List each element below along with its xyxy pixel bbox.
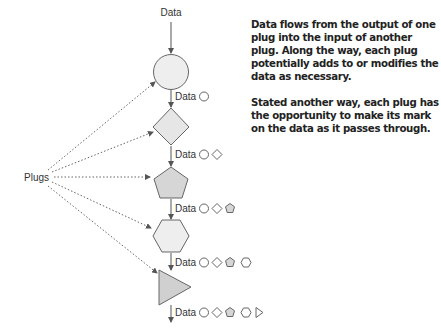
input-data-label: Data bbox=[160, 7, 182, 18]
mark-circle-icon bbox=[200, 258, 209, 267]
mark-hexagon-icon bbox=[241, 308, 251, 317]
plug-diamond-icon bbox=[153, 108, 189, 145]
explanation-note: Data flows from the output of one plug i… bbox=[251, 18, 441, 148]
svg-text:Data: Data bbox=[175, 307, 197, 318]
mark-circle-icon bbox=[200, 308, 209, 317]
note-paragraph-2: Stated another way, each plug has the op… bbox=[251, 96, 441, 135]
plug-triangle-icon bbox=[159, 270, 191, 305]
plug-connectors bbox=[48, 82, 157, 273]
mark-pentagon-icon bbox=[226, 308, 235, 317]
data-row-1: Data bbox=[175, 91, 209, 102]
svg-text:Data: Data bbox=[175, 91, 197, 102]
mark-diamond-icon bbox=[212, 258, 222, 268]
plug-pentagon-icon bbox=[154, 167, 188, 198]
svg-text:Data: Data bbox=[175, 257, 197, 268]
data-row-2: Data bbox=[175, 149, 222, 160]
mark-circle-icon bbox=[200, 204, 209, 213]
data-row-4: Data bbox=[175, 257, 251, 268]
svg-text:Data: Data bbox=[175, 149, 197, 160]
svg-text:Data: Data bbox=[175, 203, 197, 214]
plugs-label: Plugs bbox=[24, 172, 49, 183]
mark-pentagon-icon bbox=[226, 258, 235, 267]
data-row-5: Data bbox=[175, 307, 263, 318]
plug-circle-icon bbox=[154, 55, 189, 90]
note-paragraph-1: Data flows from the output of one plug i… bbox=[251, 18, 441, 83]
mark-pentagon-icon bbox=[226, 204, 235, 213]
mark-diamond-icon bbox=[212, 150, 222, 160]
mark-circle-icon bbox=[200, 92, 209, 101]
mark-diamond-icon bbox=[212, 308, 222, 318]
mark-diamond-icon bbox=[212, 204, 222, 214]
mark-hexagon-icon bbox=[241, 258, 251, 267]
plug-hexagon-icon bbox=[153, 220, 189, 252]
mark-circle-icon bbox=[200, 150, 209, 159]
data-row-3: Data bbox=[175, 203, 235, 214]
mark-triangle-icon bbox=[256, 308, 263, 318]
